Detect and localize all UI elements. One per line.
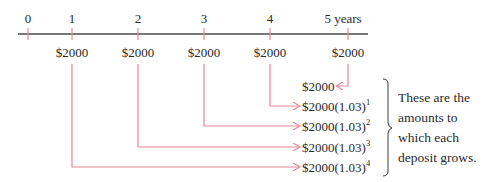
arrow-period-3 xyxy=(204,64,300,126)
explanation-line-1: These are the xyxy=(398,88,493,108)
deposit-amounts: $2000 $2000 $2000 $2000 $2000 xyxy=(56,45,365,60)
tick-label-1: 1 xyxy=(69,11,76,26)
result-row-4: $2000(1.03)4 xyxy=(302,158,371,175)
tick-label-4: 4 xyxy=(267,11,274,26)
arrow-period-1 xyxy=(72,64,300,167)
arrow-period-4 xyxy=(270,64,300,106)
tick-labels: 0 1 2 3 4 5 years xyxy=(25,11,362,26)
explanation-line-4: deposit grows. xyxy=(398,148,493,168)
deposit-amount-4: $2000 xyxy=(254,45,287,60)
tick-label-0: 0 xyxy=(25,11,32,26)
explanation-line-3: which each xyxy=(398,128,493,148)
deposit-amount-3: $2000 xyxy=(188,45,221,60)
result-row-0: $2000 xyxy=(302,79,335,94)
deposit-amount-1: $2000 xyxy=(56,45,89,60)
explanation-note: These are the amounts to which each depo… xyxy=(398,88,493,168)
deposit-amount-5: $2000 xyxy=(332,45,365,60)
tick-label-5: 5 years xyxy=(324,11,361,26)
arrow-period-5 xyxy=(336,64,348,86)
explanation-line-2: amounts to xyxy=(398,108,493,128)
right-brace-icon xyxy=(383,79,392,176)
result-row-1: $2000(1.03)1 xyxy=(302,97,370,114)
tick-label-3: 3 xyxy=(201,11,208,26)
deposit-amount-2: $2000 xyxy=(122,45,155,60)
tick-label-2: 2 xyxy=(135,11,142,26)
result-row-3: $2000(1.03)3 xyxy=(302,138,370,155)
result-amounts: $2000 $2000(1.03)1 $2000(1.03)2 $2000(1.… xyxy=(302,79,371,175)
result-row-2: $2000(1.03)2 xyxy=(302,117,370,134)
